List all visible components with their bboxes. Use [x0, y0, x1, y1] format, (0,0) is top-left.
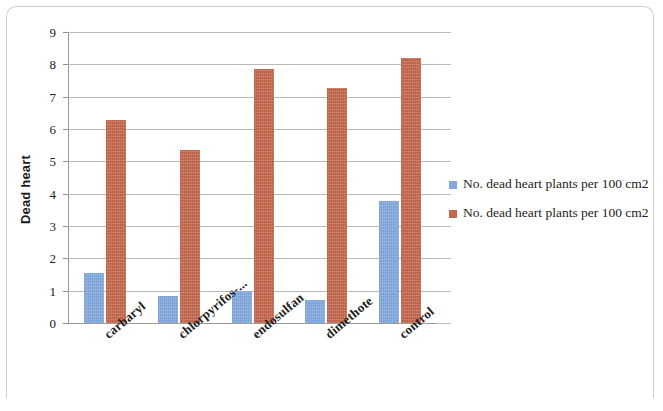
y-tick-mark: [63, 32, 68, 33]
bar-group: [84, 32, 126, 323]
legend-item[interactable]: No. dead heart plants per 100 cm2: [449, 176, 657, 192]
bar: [305, 300, 325, 323]
gridline-stub: [437, 129, 451, 130]
bar: [254, 69, 274, 323]
gridline-stub: [437, 194, 451, 195]
y-tick-label: 4: [22, 187, 62, 200]
gridline-stub: [437, 97, 451, 98]
y-tick-label: 0: [22, 317, 62, 330]
y-tick-label: 1: [22, 284, 62, 297]
gridline-stub: [437, 161, 451, 162]
legend-swatch: [449, 181, 457, 189]
bar-group: [379, 32, 421, 323]
legend-item[interactable]: No. dead heart plants per 100 cm2: [449, 205, 657, 221]
y-tick-label: 6: [22, 123, 62, 136]
gridline-stub: [437, 258, 451, 259]
y-tick-label: 3: [22, 220, 62, 233]
bar: [158, 296, 178, 323]
bar: [327, 88, 347, 323]
y-tick-mark: [63, 258, 68, 259]
bar-group: [305, 32, 347, 323]
legend-label: No. dead heart plants per 100 cm2: [463, 205, 657, 221]
y-tick-mark: [63, 161, 68, 162]
y-tick-label: 5: [22, 155, 62, 168]
y-tick-mark: [63, 129, 68, 130]
gridline-stub: [437, 32, 451, 33]
y-tick-mark: [63, 291, 68, 292]
bar: [401, 58, 421, 323]
bar: [84, 273, 104, 323]
gridline-stub: [437, 64, 451, 65]
plot-area: [68, 32, 437, 323]
bar: [106, 120, 126, 323]
y-tick-mark: [63, 194, 68, 195]
bar-group: [158, 32, 200, 323]
gridline-stub: [437, 323, 451, 324]
gridline-stub: [437, 226, 451, 227]
bar: [180, 150, 200, 323]
y-tick-label: 7: [22, 90, 62, 103]
legend-swatch: [449, 210, 457, 218]
y-tick-mark: [63, 64, 68, 65]
legend-label: No. dead heart plants per 100 cm2: [463, 176, 657, 192]
y-tick-label: 2: [22, 252, 62, 265]
bar-chart: Dead heart 0123456789 carbarylchlorpyrif…: [0, 0, 663, 411]
chart-legend: No. dead heart plants per 100 cm2No. dea…: [449, 176, 657, 234]
bar: [379, 201, 399, 323]
y-tick-label: 8: [22, 58, 62, 71]
y-tick-label: 9: [22, 26, 62, 39]
scanned-page: Dead heart 0123456789 carbarylchlorpyrif…: [0, 0, 663, 411]
y-tick-mark: [63, 97, 68, 98]
y-tick-mark: [63, 226, 68, 227]
gridline-stub: [437, 291, 451, 292]
y-tick-mark: [63, 323, 68, 324]
